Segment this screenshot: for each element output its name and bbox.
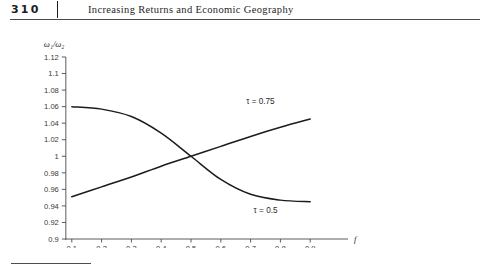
x-axis-tick-label: 0.4: [156, 244, 167, 248]
x-axis-label: f: [354, 234, 358, 244]
line-chart: 1.121.11.081.061.041.0210.980.960.940.92…: [0, 26, 487, 248]
running-title: Increasing Returns and Economic Geograph…: [88, 4, 294, 15]
y-axis-tick-label: 1.12: [44, 53, 59, 62]
y-axis: 1.121.11.081.061.041.0210.980.960.940.92…: [44, 53, 66, 244]
x-axis-tick-label: 0.2: [96, 244, 107, 248]
x-axis-tick-label: 0.7: [245, 244, 256, 248]
y-axis-tick-label: 0.92: [44, 218, 59, 227]
y-axis-tick-label: 1.1: [48, 69, 59, 78]
y-axis-tick-label: 1.02: [44, 135, 59, 144]
y-axis-tick-label: 0.98: [44, 169, 59, 178]
figure: 1.121.11.081.061.041.0210.980.960.940.92…: [0, 26, 487, 248]
footnote-separator: [11, 263, 91, 264]
series-label-1: τ = 0.5: [254, 206, 278, 215]
y-axis-tick-label: 1.04: [44, 119, 59, 128]
y-axis-label: ω₁/ω₂: [44, 39, 65, 49]
header-rule: [10, 19, 480, 20]
y-axis-tick-label: 1.06: [44, 102, 59, 111]
y-axis-tick-label: 0.9: [48, 235, 59, 244]
y-axis-tick-label: 1.08: [44, 86, 59, 95]
x-axis-tick-label: 0.3: [126, 244, 137, 248]
x-axis-tick-label: 0.5: [186, 244, 197, 248]
y-axis-tick-label: 1: [55, 152, 59, 161]
x-axis-tick-label: 0.1: [67, 244, 78, 248]
chart-series-group: [72, 107, 310, 202]
y-axis-tick-label: 0.94: [44, 202, 59, 211]
series-label-2: τ = 0.75: [246, 97, 275, 106]
chart-plot-area: 1.121.11.081.061.041.0210.980.960.940.92…: [0, 26, 487, 248]
series-line-1: [72, 107, 310, 202]
series-line-2: [72, 119, 310, 197]
folio-divider: [57, 1, 58, 18]
x-axis-tick-label: 0.6: [216, 244, 227, 248]
page-header: 310 Increasing Returns and Economic Geog…: [0, 0, 487, 26]
x-axis-tick-label: 0.9: [305, 244, 316, 248]
x-axis: 0.10.20.30.40.50.60.70.80.9: [66, 239, 348, 248]
page-number: 310: [11, 3, 41, 16]
y-axis-tick-label: 0.96: [44, 185, 59, 194]
x-axis-tick-label: 0.8: [275, 244, 286, 248]
